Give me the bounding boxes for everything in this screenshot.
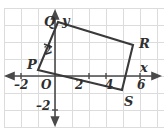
x-axis-arrow-left <box>6 73 14 80</box>
x-axis-arrow-right <box>152 73 160 80</box>
x-tick-label-4: 4 <box>105 79 113 91</box>
vertex-label-s: S <box>124 95 133 108</box>
x-tick-label-6: 6 <box>137 79 145 91</box>
coordinate-plane-figure: Q y R x S P O –2 2 4 6 –2 2 <box>0 0 168 138</box>
x-tick-label-2: 2 <box>75 79 83 91</box>
y-axis-arrow-down <box>52 117 59 125</box>
origin-label: O <box>41 79 51 91</box>
vertex-label-r: R <box>139 37 150 50</box>
y-tick-label-neg2: –2 <box>36 100 50 112</box>
x-tick-label-neg2: –2 <box>14 79 28 91</box>
vertex-label-p: P <box>27 58 37 71</box>
vertex-label-q: Q <box>44 15 55 28</box>
x-axis-label: x <box>140 61 148 74</box>
y-axis-label: y <box>62 14 70 27</box>
